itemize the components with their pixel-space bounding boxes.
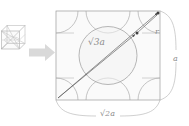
label-diagonal: √3a	[88, 38, 105, 47]
label-height: a	[173, 55, 178, 63]
transition-arrow-icon	[29, 44, 55, 61]
label-radius: r	[155, 28, 159, 36]
cube-wireframe	[2, 26, 26, 50]
diagram-svg	[0, 0, 189, 126]
figure-canvas: √3a r a √2a Cube to sphere-packing cross…	[0, 0, 189, 126]
label-width: √2a	[100, 110, 115, 118]
